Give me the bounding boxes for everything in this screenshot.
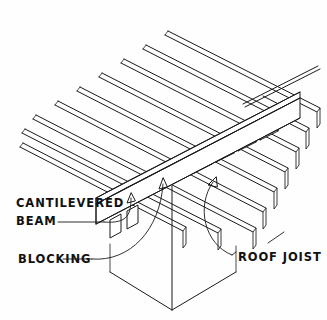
framing-diagram: CANTILEVERED BEAM BLOCKING ROOF JOIST (0, 0, 327, 320)
roof-joist-group (20, 31, 320, 250)
leader-tick-joist-upper (268, 232, 284, 243)
label-blocking: BLOCKING (18, 252, 91, 266)
isometric-framing-drawing: CANTILEVERED BEAM BLOCKING ROOF JOIST (0, 0, 327, 320)
label-roof-joist: ROOF JOIST (238, 250, 322, 264)
beam-seat-block (127, 205, 138, 229)
label-cantilevered-beam-line1: CANTILEVERED (16, 196, 124, 210)
leader-stub-joist (232, 252, 236, 255)
label-cantilevered-beam-line2: BEAM (16, 214, 57, 228)
roof-joist (77, 87, 277, 209)
beam-seat-block (110, 214, 121, 238)
